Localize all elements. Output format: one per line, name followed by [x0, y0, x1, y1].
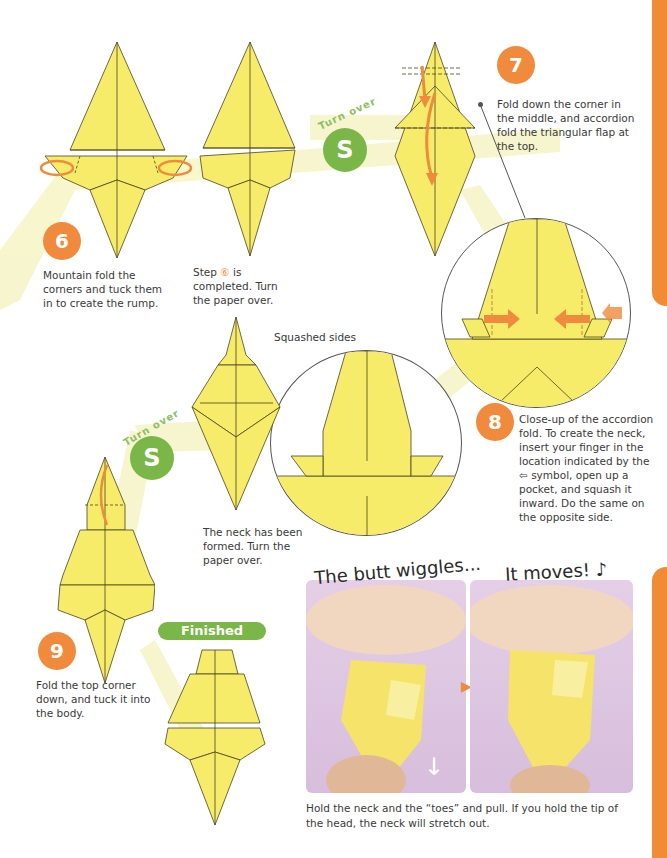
finished-banner: Finished [158, 622, 266, 640]
step-8-text: Close-up of the accordion fold. To creat… [519, 412, 654, 524]
step-7-text: Fold down the corner in the middle, and … [497, 97, 637, 153]
step-ref-icon: ⑥ [220, 266, 229, 278]
step6-completed-diagram [195, 38, 305, 263]
squashed-sides-circle [270, 350, 462, 536]
photo-it-moves [470, 580, 633, 793]
step-6-badge: 6 [43, 222, 81, 260]
squashed-sides-diagram [271, 351, 462, 536]
step-6-completed-text: Step ⑥ is completed. Turn the paper over… [193, 265, 288, 307]
step-9-badge: 9 [38, 632, 76, 670]
neck-formed-diagram [188, 315, 288, 515]
chapter-tab-top [652, 0, 667, 306]
chapter-tab-bottom [652, 567, 667, 858]
photo-description: Hold the neck and the “toes” and pull. I… [306, 801, 636, 831]
turn-over-icon: S [323, 128, 367, 172]
step-7-badge: 7 [497, 46, 535, 84]
finished-diagram [160, 648, 270, 828]
step8-closeup-diagram [442, 219, 631, 408]
photo-butt-wiggles: ↓ [306, 580, 466, 793]
neck-formed-text: The neck has been formed. Turn the paper… [203, 525, 303, 567]
step-8-badge: 8 [476, 403, 514, 441]
pull-arrow-icon: ↓ [424, 753, 444, 781]
step-6-number: 6 [55, 229, 69, 253]
step-6-text: Mountain fold the corners and tuck them … [43, 268, 168, 310]
step8-closeup-circle [441, 218, 631, 408]
step-9-text: Fold the top corner down, and tuck it in… [36, 678, 156, 720]
